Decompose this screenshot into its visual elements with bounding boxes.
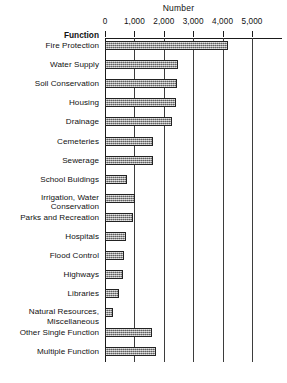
row-label-13: Libraries bbox=[0, 289, 99, 298]
row-label-line1: Drainage bbox=[66, 117, 99, 126]
row-label-0: Fire Protection bbox=[0, 41, 99, 50]
row-label-line1: Highways bbox=[64, 270, 100, 279]
row-label-5: Cemeteries bbox=[0, 137, 99, 146]
bar-5 bbox=[105, 137, 153, 146]
bar-7 bbox=[105, 175, 127, 184]
row-label-line1: Natural Resources, bbox=[29, 307, 99, 316]
bar-12 bbox=[105, 270, 123, 279]
row-label-4: Drainage bbox=[0, 117, 99, 126]
row-label-11: Flood Control bbox=[0, 251, 99, 260]
bar-0 bbox=[105, 41, 228, 50]
chart-rows: Fire ProtectionWater SupplySoil Conserva… bbox=[0, 0, 287, 383]
row-label-line1: Libraries bbox=[68, 289, 100, 298]
row-label-line1: Flood Control bbox=[50, 251, 99, 260]
bar-10 bbox=[105, 232, 126, 241]
row-label-line1: Other Single Function bbox=[20, 328, 99, 337]
row-label-7: School Buidings bbox=[0, 175, 99, 184]
bar-6 bbox=[105, 156, 153, 165]
bar-11 bbox=[105, 251, 124, 260]
row-label-line1: Multiple Function bbox=[37, 347, 99, 356]
row-label-15: Other Single Function bbox=[0, 328, 99, 337]
bar-9 bbox=[105, 213, 133, 222]
x-tick-mark-4000 bbox=[223, 31, 224, 37]
bar-14 bbox=[105, 308, 113, 317]
row-label-8: Irrigation, WaterConservation bbox=[0, 193, 99, 212]
bar-3 bbox=[105, 98, 176, 107]
x-tick-mark-1000 bbox=[134, 31, 135, 37]
row-label-2: Soil Conservation bbox=[0, 79, 99, 88]
row-label-6: Sewerage bbox=[0, 156, 99, 165]
row-label-line1: Cemeteries bbox=[57, 137, 99, 146]
row-label-line1: Water Supply bbox=[50, 60, 99, 69]
row-label-line2: Miscellaneous bbox=[0, 317, 99, 326]
x-tick-mark-2000 bbox=[164, 31, 165, 37]
bar-1 bbox=[105, 60, 178, 69]
row-label-line1: Irrigation, Water bbox=[41, 193, 99, 202]
gridline-4000 bbox=[223, 38, 224, 362]
row-label-line1: School Buidings bbox=[40, 175, 99, 184]
row-label-1: Water Supply bbox=[0, 60, 99, 69]
row-label-12: Highways bbox=[0, 270, 99, 279]
bar-8 bbox=[105, 194, 135, 203]
row-label-line1: Parks and Recreation bbox=[20, 213, 99, 222]
row-label-10: Hospitals bbox=[0, 232, 99, 241]
bar-13 bbox=[105, 289, 119, 298]
row-label-line1: Fire Protection bbox=[46, 41, 99, 50]
row-label-line1: Soil Conservation bbox=[35, 79, 99, 88]
bar-2 bbox=[105, 79, 177, 88]
x-tick-mark-0 bbox=[105, 31, 106, 37]
bar-4 bbox=[105, 117, 172, 126]
row-label-14: Natural Resources,Miscellaneous bbox=[0, 307, 99, 326]
row-label-line1: Housing bbox=[69, 98, 99, 107]
gridline-3000 bbox=[193, 38, 194, 362]
bar-16 bbox=[105, 347, 156, 356]
gridline-5000 bbox=[252, 38, 253, 362]
row-label-line1: Hospitals bbox=[65, 232, 99, 241]
bar-15 bbox=[105, 328, 152, 337]
row-label-line1: Sewerage bbox=[62, 156, 99, 165]
row-label-3: Housing bbox=[0, 98, 99, 107]
x-tick-mark-5000 bbox=[252, 31, 253, 37]
row-label-16: Multiple Function bbox=[0, 347, 99, 356]
row-label-9: Parks and Recreation bbox=[0, 213, 99, 222]
bar-chart: Number 01,0002,0003,0004,0005,000 Functi… bbox=[0, 0, 287, 383]
x-tick-mark-3000 bbox=[193, 31, 194, 37]
row-label-line2: Conservation bbox=[0, 202, 99, 211]
